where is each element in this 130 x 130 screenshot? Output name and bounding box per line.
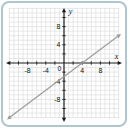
x-tick-label: -8	[24, 67, 30, 74]
y-axis-letter: y	[68, 7, 73, 16]
y-axis-bottom-arrow	[62, 118, 66, 122]
y-tick-label: 4	[57, 41, 61, 48]
y-tick-label: 8	[57, 23, 61, 30]
origin-label: 0	[58, 65, 62, 72]
x-tick-label: -4	[43, 67, 49, 74]
x-axis-left-arrow	[6, 61, 10, 65]
y-tick-label: -8	[54, 96, 60, 103]
x-tick-label: 4	[80, 67, 84, 74]
coordinate-plane-graph: -8-44884-4-80xy	[0, 0, 130, 130]
x-tick-label: 8	[98, 67, 102, 74]
x-axis-letter: x	[114, 52, 119, 61]
x-axis-right-arrow	[118, 61, 122, 65]
